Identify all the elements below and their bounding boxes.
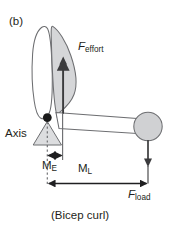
forearm-shape	[56, 113, 137, 134]
force-load-subscript: load	[135, 193, 150, 202]
bicep-curl-lever-diagram: (b) Axis Feffort Fload ME ML (Bicep curl…	[0, 0, 172, 232]
moment-effort-label: ME	[42, 160, 57, 172]
force-load-label: Fload	[128, 189, 151, 201]
axis-pivot-dot	[43, 113, 52, 122]
force-effort-symbol: F	[78, 40, 85, 52]
panel-letter-label: (b)	[9, 16, 23, 28]
upper-arm-shape	[32, 26, 52, 118]
moment-load-label: ML	[78, 163, 92, 175]
force-load-arrow-head	[144, 159, 152, 168]
load-weight-ball	[134, 112, 162, 140]
force-effort-label: Feffort	[78, 41, 104, 53]
moment-effort-symbol: M	[42, 159, 52, 171]
force-load-symbol: F	[128, 188, 135, 200]
axis-label: Axis	[5, 128, 27, 140]
force-effort-subscript: effort	[85, 45, 104, 54]
moment-effort-subscript: E	[52, 164, 57, 173]
moment-load-subscript: L	[88, 167, 93, 176]
moment-load-symbol: M	[78, 162, 88, 174]
figure-caption: (Bicep curl)	[51, 210, 109, 222]
